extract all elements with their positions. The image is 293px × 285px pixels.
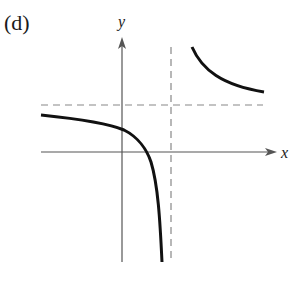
y-axis-label: y [116,13,126,31]
graph-canvas: (d) y x [0,0,293,285]
x-axis-label: x [280,144,288,161]
left-branch-curve [41,115,162,262]
right-branch-curve [192,47,264,92]
panel-label: (d) [4,10,30,35]
